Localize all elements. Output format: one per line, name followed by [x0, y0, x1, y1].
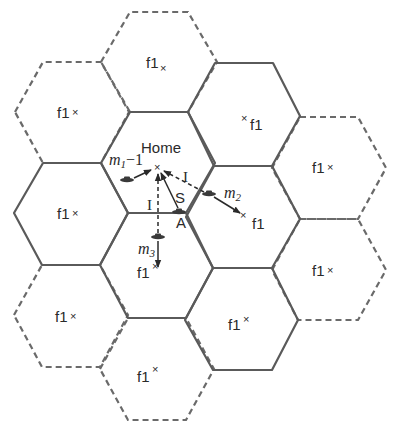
label-top: f1 [146, 54, 159, 71]
m2-label: m2 [224, 184, 242, 203]
label-far-right-upper: f1 [312, 159, 325, 176]
interference-label-m2: I [183, 169, 188, 185]
marker-upper-left: × [72, 106, 78, 118]
marker-upper-right: × [241, 112, 247, 124]
mobile-m3-icon [151, 234, 165, 240]
label-right-middle: f1 [252, 215, 265, 232]
m1-label: m1−1 [109, 151, 143, 170]
dashed-cells [14, 12, 386, 420]
signal-label-S: S [175, 189, 185, 206]
label-left: f1 [57, 205, 70, 222]
home-base-station-marker: × [154, 161, 160, 173]
mobile-m1-icon [120, 177, 134, 183]
marker-right-middle: × [240, 209, 246, 221]
label-lower-center: f1 [137, 264, 150, 281]
arrow-m1-to-home [134, 170, 151, 178]
cell-lower-right [185, 268, 298, 370]
marker-far-right-lower: × [327, 264, 333, 276]
cell-top [101, 12, 217, 112]
label-far-right-lower: f1 [312, 262, 325, 279]
marker-bottom: × [152, 363, 158, 375]
label-upper-right: f1 [250, 116, 263, 133]
marker-far-right-upper: × [327, 161, 333, 173]
marker-top: × [160, 62, 166, 74]
m3-label: m3 [138, 240, 156, 259]
cellular-reuse-diagram: f1 × f1 × × f1 f1 × f1 × × f1 f1 × f1 × … [0, 0, 393, 428]
label-lower-left: f1 [55, 308, 68, 325]
marker-lower-left: × [70, 310, 76, 322]
interference-label-m3: I [147, 197, 152, 213]
marker-left: × [72, 207, 78, 219]
label-bottom: f1 [137, 368, 150, 385]
label-lower-right: f1 [228, 316, 241, 333]
cell-left [14, 163, 128, 265]
home-label: Home [141, 139, 181, 156]
marker-lower-right: × [243, 313, 249, 325]
label-upper-left: f1 [57, 104, 70, 121]
A-label: A [176, 214, 186, 231]
